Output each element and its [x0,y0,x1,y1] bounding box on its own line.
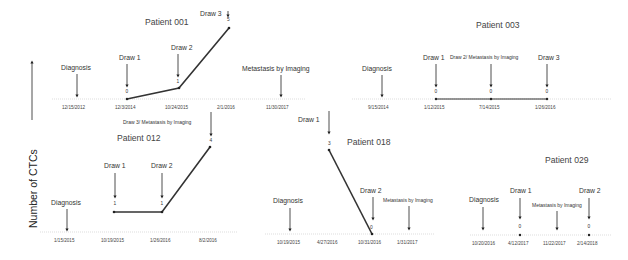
date-tick: 11/22/2017 [543,241,566,246]
panel-title: Patient 003 [476,20,520,30]
date-tick: 1/26/2016 [150,238,171,243]
ctc-value: 3 [328,141,331,146]
date-tick: 1/12/2015 [424,105,445,110]
data-point [161,211,164,214]
date-tick: 1/15/2015 [54,238,75,243]
ctc-value: 5 [227,17,230,22]
date-tick: 2/1/2016 [217,105,235,110]
event-label-draw1: Draw 1 [104,162,126,169]
data-point [228,27,231,30]
panel-title: Patient 001 [145,17,189,27]
panel-patient-018: Patient 018 Diagnosis Draw 1 3 Draw 2 0 … [265,111,435,245]
y-axis-label: Number of CTCs [27,149,39,228]
date-tick: 10/31/2016 [358,240,381,245]
event-label-draw3: Draw 3 [538,54,560,61]
event-label-metastasis: Metastasis by Imaging [242,65,310,73]
data-point [113,211,116,214]
data-point [546,98,548,100]
date-tick: 1/31/2017 [397,240,418,245]
data-point [178,87,181,90]
panel-title: Patient 029 [545,155,589,165]
panel-patient-003: Patient 003 Diagnosis Draw 1 0 Draw 2/ M… [352,20,612,110]
data-point [328,149,331,152]
data-point [435,98,437,100]
ctc-value: 0 [546,89,549,94]
date-tick: 10/19/2015 [277,240,300,245]
event-label-diagnosis: Diagnosis [273,197,303,205]
data-point [371,233,374,236]
date-tick: 2/14/2018 [577,241,598,246]
event-label-metastasis: Metastasis by Imaging [532,202,582,208]
date-tick: 10/20/2016 [472,241,495,246]
event-label-draw2: Draw 2 [171,44,193,51]
event-label-draw1: Draw 1 [298,116,320,123]
date-tick: 12/3/2014 [115,105,136,110]
data-point [126,98,129,101]
panel-patient-012: Patient 012 Diagnosis Draw 1 1 Draw 2 1 … [40,112,238,243]
panel-title: Patient 012 [117,133,161,143]
ctc-value: 4 [210,138,213,143]
event-label-draw1: Draw 1 [510,187,532,194]
data-point [490,98,492,100]
date-tick: 10/24/2015 [165,105,188,110]
event-label-draw3-metastasis: Draw 3/ Metastasis by Imaging [123,119,192,125]
event-label-draw3: Draw 3 [200,10,222,17]
event-label-draw2: Draw 2 [579,187,601,194]
date-tick: 1/26/2016 [535,105,556,110]
panel-patient-029: Patient 029 Diagnosis Draw 1 0 Metastasi… [469,155,612,246]
date-tick: 12/15/2012 [62,105,85,110]
event-label-draw1: Draw 1 [119,54,141,61]
date-tick: 8/2/2016 [199,238,217,243]
date-tick: 11/30/2017 [266,105,289,110]
event-label-diagnosis: Diagnosis [51,199,81,207]
ctc-value: 1 [177,79,180,84]
date-tick: 7/14/2015 [479,105,500,110]
date-tick: 4/27/2016 [317,240,338,245]
panel-patient-001: Patient 001 Diagnosis Draw 1 0 Draw 2 1 … [52,10,310,110]
ctc-timeline-figure: Number of CTCs Patient 001 Diagnosis Dra… [0,0,628,260]
panel-title: Patient 018 [347,137,391,147]
ctc-value: 0 [588,224,591,229]
event-label-draw2-metastasis: Draw 2/ Metastasis by Imaging [450,54,519,60]
event-label-diagnosis: Diagnosis [61,64,91,72]
data-point [588,234,590,236]
date-tick: 10/19/2015 [101,238,124,243]
ctc-value: 1 [161,201,164,206]
ctc-value: 1 [114,201,117,206]
event-label-diagnosis: Diagnosis [362,65,392,73]
event-label-draw2: Draw 2 [151,162,173,169]
ctc-value: 0 [126,89,129,94]
data-point [209,146,212,149]
ctc-value: 0 [519,224,522,229]
y-axis: Number of CTCs [27,62,39,228]
event-label-draw2: Draw 2 [360,187,382,194]
event-label-diagnosis: Diagnosis [469,196,499,204]
date-tick: 9/15/2014 [368,105,389,110]
date-tick: 4/12/2017 [508,241,529,246]
ctc-value: 0 [435,89,438,94]
data-point [519,234,521,236]
event-label-draw1: Draw 1 [423,54,445,61]
ctc-value: 0 [490,89,493,94]
event-label-metastasis: Metastasis by Imaging [383,197,433,203]
